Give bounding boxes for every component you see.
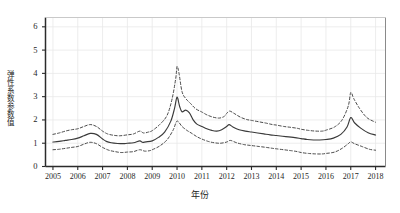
y-tick-label: 2 [24,114,38,124]
y-tick-label: 4 [24,68,38,78]
y-tick-label: 3 [24,91,38,101]
confidence-band-lines [53,66,376,154]
x-tick-label: 2018 [361,172,391,181]
y-tick-label: 5 [24,45,38,55]
y-tick-label: 0 [24,161,38,171]
y-tick-label: 6 [24,21,38,31]
x-axis-title-label: 年份 [191,190,209,200]
estimate-line [53,97,376,144]
axis-ticks [42,27,376,170]
y-tick-label: 1 [24,138,38,148]
chart-container: 弹性系数参数值 0123456 200520062007200820092010… [0,0,400,213]
x-axis-title: 年份 [0,188,400,201]
plot-area [0,0,400,213]
